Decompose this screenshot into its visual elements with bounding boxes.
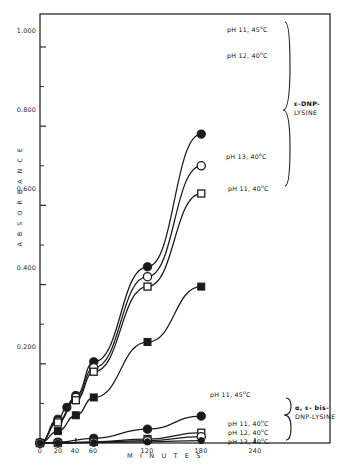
y-tick-label-1000: 1.000: [2, 27, 36, 35]
y-axis-title: A B S O R B A N C E: [16, 157, 23, 247]
series-label-ph11-40c-bis: pH 11, 40oC: [228, 419, 269, 427]
group-label-dnp-lysine: ε-DNP- LYSINE: [294, 100, 320, 117]
x-tick-label-180: 180: [189, 447, 213, 455]
y-tick-label-0400: 0.400: [2, 264, 36, 272]
chart-svg: [0, 0, 345, 468]
chart-figure: A B S O R B A N C E M I N U T E S 0.200 …: [0, 0, 345, 468]
group-label-bis-dnp-lysine: α, ε- bis- DNP-LYSINE: [295, 404, 336, 421]
series-label-ph11-45c-bis: pH 11, 45oC: [210, 390, 251, 398]
series-label-ph12-40c-bis: pH 12, 40oC: [228, 428, 269, 436]
y-tick-label-0200: 0.200: [2, 343, 36, 351]
series-label-ph13-40c-dnp: pH 13, 40oC: [226, 152, 267, 160]
x-tick-label-240: 240: [243, 447, 267, 455]
series-label-ph12-40c-dnp: pH 12, 40oC: [227, 51, 268, 59]
chart-background: [0, 0, 345, 468]
x-tick-label-120: 120: [135, 447, 159, 455]
y-tick-label-0800: 0.800: [2, 106, 36, 114]
series-label-ph13-40c-bis: pH 13, 40oC: [228, 437, 269, 445]
x-tick-label-60: 60: [81, 447, 105, 455]
series-label-ph11-45c-dnp: pH 11, 45oC: [227, 25, 268, 33]
series-label-ph11-40c-dnp: pH 11, 40oC: [228, 184, 269, 192]
y-tick-label-0600: 0.600: [2, 185, 36, 193]
